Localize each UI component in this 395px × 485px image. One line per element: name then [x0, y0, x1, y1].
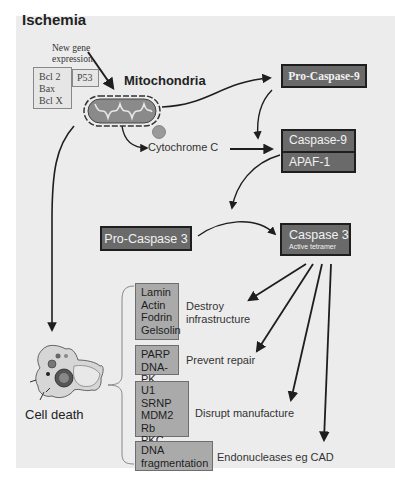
bclx-label: Bcl X — [39, 95, 66, 107]
new-gene-line-2: expression — [52, 54, 93, 65]
arrow-casp9-to-procasp3-curve — [232, 155, 280, 208]
arrow-mito-to-cytc — [122, 126, 147, 148]
caspase-9-label: Caspase-9 — [283, 131, 354, 153]
substrate-parp: PARP — [141, 348, 173, 361]
effect-line-2: infrastructure — [186, 313, 250, 326]
effect-prevent-repair: Prevent repair — [186, 354, 255, 367]
effect-disrupt-manufacture: Disrupt manufacture — [195, 407, 294, 420]
cytochrome-c-icon — [153, 126, 166, 139]
arrow-casp3-manufacture — [291, 264, 322, 400]
substrate-lamin: Lamin — [141, 286, 173, 299]
apaf-1-label: APAF-1 — [283, 153, 354, 172]
substrate-mdm2: MDM2 — [141, 409, 183, 422]
new-gene-expression-label: New gene expression — [52, 43, 93, 65]
bcl-box: Bcl 2 Bax Bcl X — [33, 67, 72, 109]
ischemia-title: Ischemia — [22, 11, 86, 28]
cell-death-label: Cell death — [25, 407, 84, 422]
bax-label: Bax — [39, 83, 66, 95]
arrow-casp3-infrastructure — [249, 264, 306, 300]
substrate-gelsolin: Gelsolin — [141, 324, 173, 337]
bcl2-label: Bcl 2 — [39, 71, 66, 83]
substrate-actin: Actin — [141, 299, 173, 312]
dying-cell-icon — [30, 345, 103, 400]
effect-endonucleases: Endonucleases eg CAD — [217, 451, 334, 464]
effect-destroy-infrastructure: Destroy infrastructure — [186, 300, 250, 326]
arrow-procasp3-to-casp3 — [198, 222, 275, 236]
caspase9-apaf1-complex: Caspase-9 APAF-1 — [281, 129, 356, 173]
substrate-box-infrastructure: Lamin Actin Fodrin Gelsolin — [135, 283, 179, 340]
caspase-3-label: Caspase 3 — [289, 228, 349, 242]
substrate-brace — [108, 286, 134, 464]
cytochrome-c-label: Cytochrome C — [148, 141, 218, 153]
substrate-fodrin: Fodrin — [141, 311, 173, 324]
substrate-rb: Rb — [141, 422, 183, 435]
caspase-3-box: Caspase 3 Active tetramer — [280, 223, 351, 256]
mitochondria-icon — [84, 96, 160, 126]
substrate-box-manufacture: U1 SRNP MDM2 Rb PKC — [135, 381, 189, 437]
pro-caspase-3-box: Pro-Caspase 3 — [100, 226, 192, 251]
arrow-casp3-endonucleases — [324, 264, 331, 440]
substrate-dna: DNA — [141, 444, 207, 457]
substrate-fragmentation: fragmentation — [141, 457, 207, 470]
substrate-u1-srnp: U1 SRNP — [141, 384, 183, 409]
p53-box: P53 — [72, 69, 99, 87]
substrate-box-repair: PARP DNA-PK — [135, 345, 179, 375]
arrow-procasp9-to-casp9 — [258, 90, 272, 138]
new-gene-line-1: New gene — [52, 43, 93, 54]
pro-caspase-9-box: Pro-Caspase-9 — [281, 64, 367, 88]
arrow-mito-to-celldeath — [52, 126, 74, 330]
active-tetramer-label: Active tetramer — [289, 242, 349, 251]
mitochondria-label: Mitochondria — [124, 73, 206, 88]
substrate-box-dna: DNA fragmentation — [135, 441, 213, 471]
effect-line-1: Destroy — [186, 300, 250, 313]
